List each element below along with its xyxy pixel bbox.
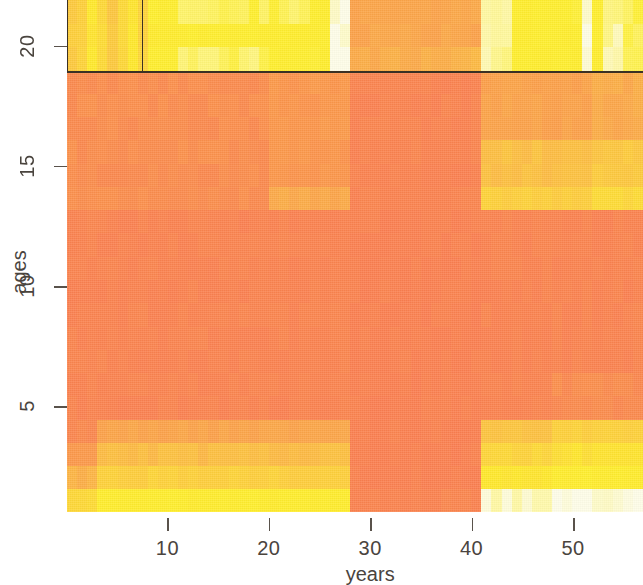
heatmap-cell [633,279,643,303]
x-axis-tick-label: 10 [156,538,179,558]
horizontal-divider [67,71,643,73]
heatmap-cell [633,116,643,140]
x-axis-tick-label: 20 [257,538,280,558]
y-axis-tick [54,166,67,168]
heatmap-cell [633,23,643,47]
heatmap-cell [633,209,643,233]
heatmap-cell [633,349,643,373]
heatmap-cell [633,396,643,420]
heatmap-cell [633,303,643,327]
selection-rectangle[interactable] [67,0,143,72]
y-axis-tick [54,46,67,48]
heatmap-cell [633,70,643,94]
heatmap-cell [633,93,643,117]
y-axis-tick-label: 20 [17,34,37,57]
heatmap-plot-area [67,0,643,512]
heatmap-cell [633,326,643,350]
heatmap-cell [633,465,643,489]
y-axis-tick-label: 15 [17,154,37,177]
x-axis-title: years [346,564,395,584]
x-axis-tick-label: 50 [561,538,584,558]
heatmap-cell [633,256,643,280]
heatmap-cell [633,163,643,187]
heatmap-cell [633,489,643,512]
x-axis-tick-label: 30 [359,538,382,558]
x-axis-tick [573,518,575,531]
y-axis-tick-label: 5 [17,400,37,412]
heatmap-cell [633,0,643,24]
x-axis-tick [269,518,271,531]
heatmap-cell [633,372,643,396]
heatmap-cell [633,47,643,71]
y-axis-title: ages [9,250,29,293]
y-axis-tick [54,406,67,408]
y-axis-tick [54,286,67,288]
heatmap-cell [633,233,643,257]
heatmap-cell [633,419,643,443]
heatmap-cells [67,0,643,512]
x-axis-tick-label: 40 [460,538,483,558]
heatmap-cell [633,186,643,210]
x-axis-tick [167,518,169,531]
heatmap-cell [633,442,643,466]
x-axis-tick [472,518,474,531]
heatmap-cell [633,140,643,164]
x-axis-tick [370,518,372,531]
